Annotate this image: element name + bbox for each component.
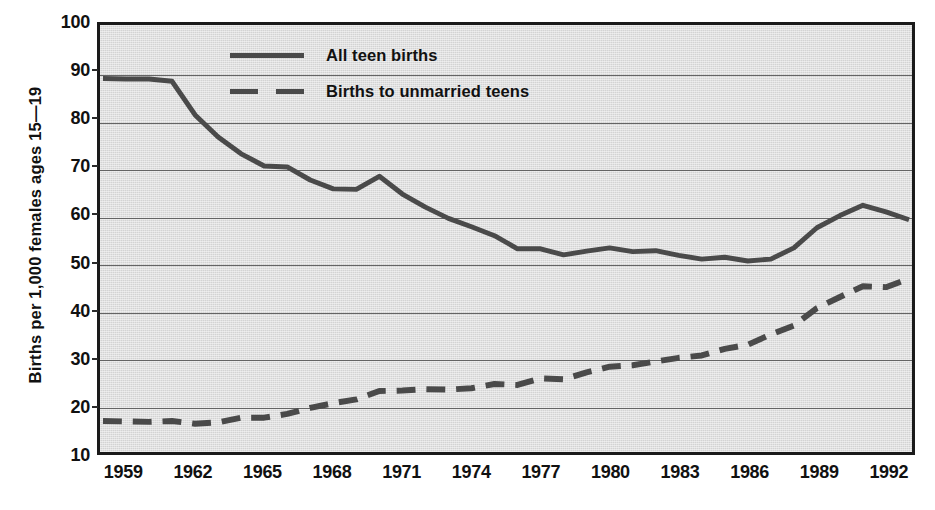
y-axis-tick-label: 60 bbox=[71, 204, 90, 225]
x-axis-tick-labels: 1959196219651968197119741977198019831986… bbox=[97, 462, 915, 492]
x-axis-tick-label: 1959 bbox=[104, 462, 143, 483]
legend-label-unmarried-teen-births: Births to unmarried teens bbox=[326, 82, 529, 101]
y-axis-tick-mark bbox=[92, 406, 98, 408]
legend-swatch-solid-line-icon bbox=[230, 53, 304, 58]
y-axis-tick-mark bbox=[92, 262, 98, 264]
y-axis-tick-mark bbox=[92, 117, 98, 119]
y-axis-title: Births per 1,000 females ages 15—19 bbox=[18, 15, 52, 455]
y-axis-tick-label: 40 bbox=[71, 300, 90, 321]
x-axis-tick-label: 1986 bbox=[730, 462, 769, 483]
legend-item-unmarried-teen-births: Births to unmarried teens bbox=[230, 73, 650, 109]
y-axis-tick-mark bbox=[92, 165, 98, 167]
plot-area: All teen births Births to unmarried teen… bbox=[97, 22, 915, 455]
x-axis-tick-label: 1983 bbox=[661, 462, 700, 483]
x-axis-tick-label: 1989 bbox=[800, 462, 839, 483]
legend-item-all-teen-births: All teen births bbox=[230, 37, 650, 73]
y-axis-tick-mark bbox=[92, 310, 98, 312]
y-axis-tick-label: 80 bbox=[71, 108, 90, 129]
x-axis-tick-label: 1992 bbox=[869, 462, 908, 483]
series-line-births-to-unmarried-teens bbox=[103, 279, 909, 424]
y-axis-tick-label: 50 bbox=[71, 252, 90, 273]
y-axis-tick-mark bbox=[92, 358, 98, 360]
x-axis-tick-label: 1965 bbox=[243, 462, 282, 483]
y-axis-tick-label: 30 bbox=[71, 348, 90, 369]
teen-births-line-chart: Births per 1,000 females ages 15—19 1009… bbox=[0, 0, 935, 510]
x-axis-tick-label: 1968 bbox=[313, 462, 352, 483]
x-axis-tick-label: 1962 bbox=[173, 462, 212, 483]
y-axis-tick-label: 70 bbox=[71, 156, 90, 177]
legend: All teen births Births to unmarried teen… bbox=[230, 37, 650, 109]
x-axis-tick-label: 1974 bbox=[452, 462, 491, 483]
y-axis-tick-label: 90 bbox=[71, 60, 90, 81]
y-axis-tick-mark bbox=[92, 69, 98, 71]
y-axis-tick-label: 10 bbox=[71, 445, 90, 466]
y-axis-tick-label: 20 bbox=[71, 396, 90, 417]
y-axis-tick-label: 100 bbox=[61, 12, 90, 33]
x-axis-tick-label: 1977 bbox=[521, 462, 560, 483]
y-axis-tick-labels: 100908070605040302010 bbox=[52, 22, 90, 455]
x-axis-tick-label: 1980 bbox=[591, 462, 630, 483]
legend-label-all-teen-births: All teen births bbox=[326, 46, 438, 65]
y-axis-tick-mark bbox=[92, 213, 98, 215]
x-axis-tick-label: 1971 bbox=[382, 462, 421, 483]
legend-swatch-dashed-line-icon bbox=[230, 89, 304, 94]
